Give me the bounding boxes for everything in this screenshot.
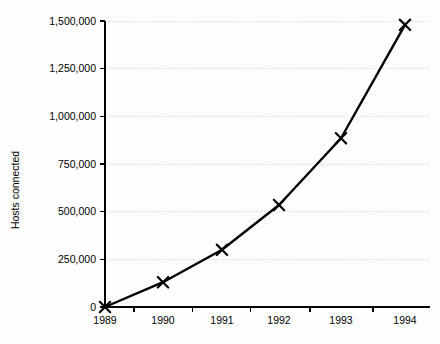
data-point-marker <box>217 245 227 255</box>
gridlines <box>105 21 430 259</box>
x-axis-tick-label: 1992 <box>267 314 291 326</box>
y-axis-title-label: Hosts connected <box>9 151 21 229</box>
x-axis-tick-label: 1989 <box>93 314 117 326</box>
y-axis-tick-label: 500,000 <box>58 205 96 217</box>
data-line <box>105 25 405 307</box>
x-axis-tick-label: 1991 <box>210 314 234 326</box>
x-axis-tick-label: 1990 <box>151 314 175 326</box>
x-axis-tick-label: 1994 <box>393 314 417 326</box>
data-point-marker <box>158 277 168 287</box>
y-axis-tick-label: 1,500,000 <box>49 15 96 27</box>
data-point-marker <box>336 133 346 143</box>
y-axis-tick-label: 250,000 <box>58 253 96 265</box>
y-axis-tick-label: 1,250,000 <box>49 62 96 74</box>
y-axis-title: Hosts connected <box>9 151 21 229</box>
data-point-marker <box>274 200 284 210</box>
y-axis-tick-label: 750,000 <box>58 158 96 170</box>
x-axis: 198919901991199219931994 <box>93 307 430 326</box>
chart-canvas: 0250,000500,000750,0001,000,0001,250,000… <box>0 0 440 344</box>
data-series-hosts-connected <box>100 20 410 313</box>
y-axis-tick-label: 0 <box>90 301 96 313</box>
y-axis: 0250,000500,000750,0001,000,0001,250,000… <box>49 15 105 313</box>
y-axis-tick-label: 1,000,000 <box>49 110 96 122</box>
line-chart: 0250,000500,000750,0001,000,0001,250,000… <box>0 0 440 344</box>
x-axis-tick-label: 1993 <box>329 314 353 326</box>
